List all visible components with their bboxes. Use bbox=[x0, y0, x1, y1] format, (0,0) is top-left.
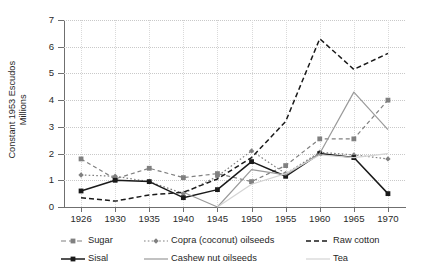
x-axis-tick bbox=[286, 207, 287, 212]
y-axis-tick-label: 5 bbox=[12, 67, 54, 78]
data-point-marker bbox=[385, 156, 390, 161]
legend-label: Sisal bbox=[88, 253, 108, 263]
data-point-marker bbox=[386, 191, 391, 196]
legend-label: Cashew nut oilseeds bbox=[171, 253, 257, 263]
y-axis-title-container: Constant 1953 Escudos Millions bbox=[0, 0, 36, 222]
legend-label: Sugar bbox=[88, 235, 113, 245]
y-axis-tick-label: 3 bbox=[12, 121, 54, 132]
x-axis-tick bbox=[252, 207, 253, 212]
series-line bbox=[217, 154, 388, 207]
series-line bbox=[81, 151, 388, 194]
data-point-marker bbox=[249, 159, 254, 164]
series-line bbox=[81, 100, 388, 181]
y-axis-tick-label: 0 bbox=[12, 201, 54, 212]
data-point-marker bbox=[79, 157, 84, 162]
data-point-marker bbox=[181, 195, 186, 200]
data-point-marker bbox=[78, 172, 83, 177]
plot-area bbox=[64, 20, 405, 207]
legend-symbol-icon bbox=[305, 253, 331, 265]
legend-label: Tea bbox=[333, 253, 348, 263]
data-point-marker bbox=[113, 178, 118, 183]
x-axis-tick bbox=[81, 207, 82, 212]
data-point-marker bbox=[283, 163, 288, 168]
data-point-marker bbox=[181, 175, 186, 180]
legend-label: Raw cotton bbox=[333, 235, 380, 245]
data-point-marker bbox=[351, 136, 356, 141]
series-tea bbox=[217, 154, 388, 207]
y-axis-tick bbox=[58, 207, 64, 208]
x-axis-tick bbox=[149, 207, 150, 212]
y-axis-tick-label: 4 bbox=[12, 94, 54, 105]
data-point-marker bbox=[147, 166, 152, 171]
legend-symbol-icon bbox=[60, 235, 86, 247]
legend-symbol-icon bbox=[143, 235, 169, 247]
x-axis-tick-label: 1970 bbox=[365, 213, 411, 224]
series-raw-cotton bbox=[81, 39, 388, 201]
data-point-marker bbox=[386, 98, 391, 103]
data-point-marker bbox=[147, 179, 152, 184]
x-axis-tick bbox=[320, 207, 321, 212]
y-axis-tick-label: 1 bbox=[12, 174, 54, 185]
y-axis-tick-label: 6 bbox=[12, 41, 54, 52]
x-axis-tick bbox=[217, 207, 218, 212]
x-axis-tick bbox=[354, 207, 355, 212]
y-axis-tick-label: 2 bbox=[12, 148, 54, 159]
chart-legend: SugarCopra (coconut) oilseedsRaw cottonS… bbox=[0, 232, 431, 273]
series-layer bbox=[64, 20, 405, 207]
x-axis-tick bbox=[388, 207, 389, 212]
x-axis-tick bbox=[115, 207, 116, 212]
legend-symbol-icon bbox=[305, 235, 331, 247]
data-point-marker bbox=[317, 136, 322, 141]
legend-symbol-icon bbox=[143, 253, 169, 265]
y-axis-tick-label: 7 bbox=[12, 14, 54, 25]
line-chart-figure: Constant 1953 Escudos Millions 01234567 … bbox=[0, 0, 431, 273]
x-axis-tick bbox=[183, 207, 184, 212]
series-line bbox=[81, 39, 388, 201]
data-point-marker bbox=[79, 189, 84, 194]
legend-label: Copra (coconut) oilseeds bbox=[171, 235, 274, 245]
data-point-marker bbox=[215, 187, 220, 192]
legend-symbol-icon bbox=[60, 253, 86, 265]
